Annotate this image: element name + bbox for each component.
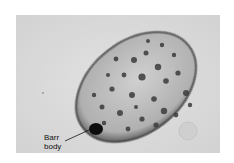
annotation-line-2: body (44, 142, 61, 151)
barr-body (89, 123, 103, 135)
micrograph-image: Barr body (16, 15, 220, 153)
annotation-label: Barr body (44, 133, 61, 151)
annotation-line-1: Barr (44, 133, 61, 142)
